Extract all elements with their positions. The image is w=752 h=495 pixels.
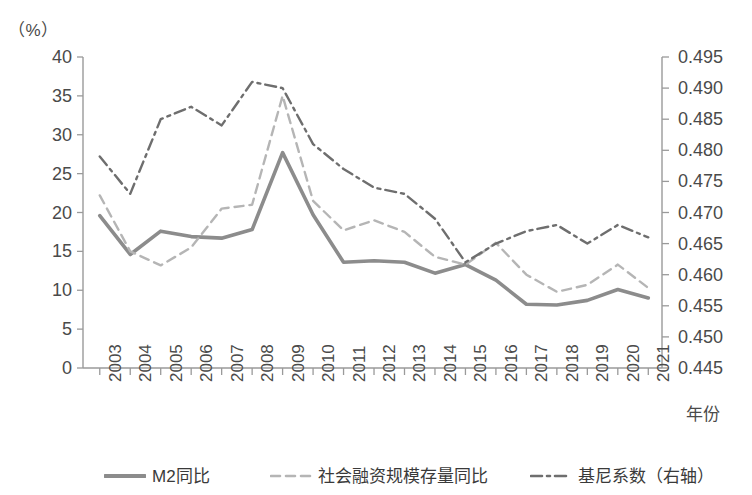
right-axis-tick-label: 0.445	[678, 359, 723, 377]
right-axis-tick-label: 0.480	[678, 141, 723, 159]
x-axis-tick-label: 2009	[290, 344, 307, 382]
gini-money-supply-line-chart: （%） 0510152025303540 0.4450.4500.4550.46…	[0, 0, 752, 495]
left-axis-tick-label: 10	[14, 281, 72, 299]
left-axis-unit-label: （%）	[8, 16, 59, 41]
x-axis-tick-label: 2020	[625, 344, 642, 382]
right-axis-tick-label: 0.470	[678, 204, 723, 222]
x-axis-title: 年份	[686, 400, 720, 425]
legend-label: 基尼系数（右轴）	[578, 468, 714, 485]
left-axis-tick-label: 35	[14, 87, 72, 105]
right-axis-tick-label: 0.450	[678, 328, 723, 346]
legend-item-2[interactable]: 社会融资规模存量同比	[270, 464, 488, 488]
x-axis-tick-label: 2010	[320, 344, 337, 382]
left-axis-tick-label: 25	[14, 165, 72, 183]
x-axis-tick-label: 2006	[198, 344, 215, 382]
x-axis-tick-label: 2019	[594, 344, 611, 382]
chart-plot-area	[0, 0, 752, 495]
x-axis-tick-label: 2013	[411, 344, 428, 382]
legend-label: 社会融资规模存量同比	[318, 468, 488, 485]
x-axis-tick-label: 2017	[533, 344, 550, 382]
legend-line-swatch-icon	[104, 470, 146, 482]
x-axis-tick-label: 2012	[381, 344, 398, 382]
legend-line-swatch-icon	[530, 470, 572, 482]
left-axis-tick-label: 15	[14, 242, 72, 260]
left-axis-tick-label: 40	[14, 48, 72, 66]
legend-item-1[interactable]: M2同比	[104, 464, 210, 488]
legend-item-3[interactable]: 基尼系数（右轴）	[530, 464, 714, 488]
legend-label: M2同比	[152, 468, 210, 485]
right-axis-tick-label: 0.460	[678, 266, 723, 284]
right-axis-tick-label: 0.475	[678, 172, 723, 190]
x-axis-tick-label: 2003	[107, 344, 124, 382]
x-axis-tick-label: 2011	[351, 345, 368, 382]
x-axis-tick-label: 2005	[168, 344, 185, 382]
x-axis-tick-label: 2007	[229, 344, 246, 382]
right-axis-tick-label: 0.465	[678, 235, 723, 253]
x-axis-tick-label: 2014	[442, 344, 459, 382]
left-axis-tick-label: 0	[14, 359, 72, 377]
x-axis-tick-label: 2008	[259, 344, 276, 382]
x-axis-tick-label: 2004	[137, 344, 154, 382]
chart-legend: M2同比社会融资规模存量同比基尼系数（右轴）	[0, 462, 752, 495]
x-axis-tick-label: 2016	[503, 344, 520, 382]
left-axis-tick-label: 20	[14, 204, 72, 222]
right-axis-tick-label: 0.455	[678, 297, 723, 315]
x-axis-tick-label: 2015	[472, 344, 489, 382]
left-axis-tick-label: 30	[14, 126, 72, 144]
right-axis-tick-label: 0.485	[678, 110, 723, 128]
x-axis-tick-label: 2021	[655, 344, 672, 382]
series-line-1	[100, 153, 649, 305]
right-axis-tick-label: 0.490	[678, 79, 723, 97]
x-axis-tick-label: 2018	[564, 344, 581, 382]
legend-line-swatch-icon	[270, 470, 312, 482]
right-axis-tick-label: 0.495	[678, 48, 723, 66]
left-axis-tick-label: 5	[14, 320, 72, 338]
